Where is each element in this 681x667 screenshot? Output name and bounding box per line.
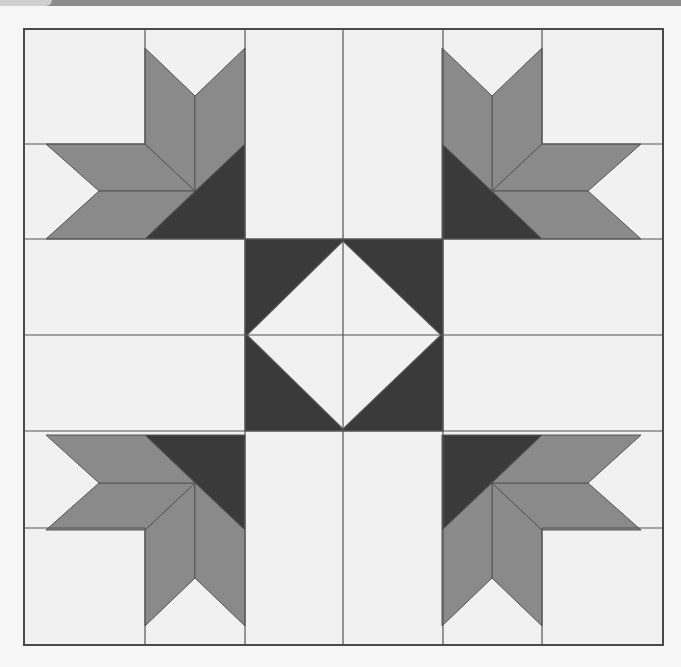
quilt-canvas: [0, 0, 681, 667]
quilt-block-image: [0, 0, 681, 667]
